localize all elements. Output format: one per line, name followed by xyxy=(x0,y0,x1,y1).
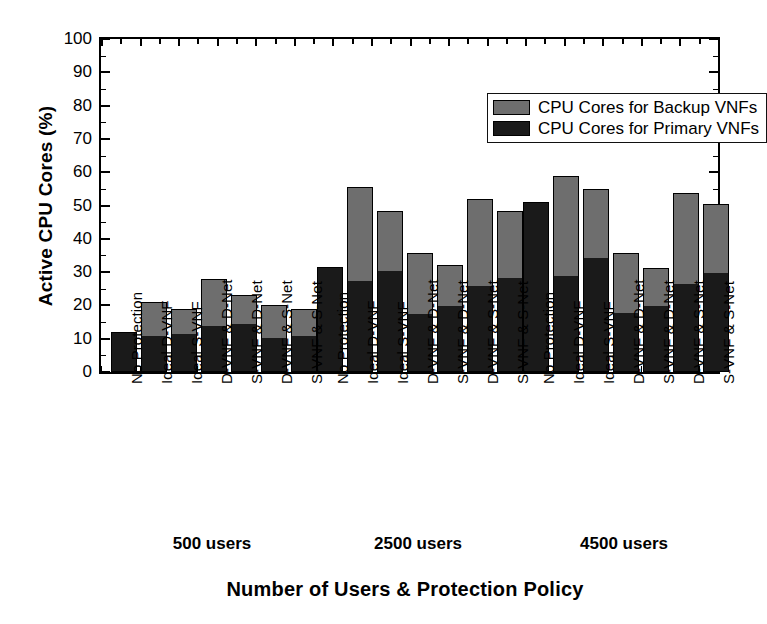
x-tick-top xyxy=(120,39,122,44)
y-tick-major xyxy=(101,105,110,107)
legend-swatch-backup xyxy=(493,100,530,115)
y-tick-major xyxy=(101,71,110,73)
x-group-label: 500 users xyxy=(173,534,251,554)
y-tick-minor xyxy=(101,89,106,90)
y-tick-minor xyxy=(101,156,106,157)
y-tick-minor xyxy=(101,56,106,57)
x-category-label: D-VNF & D-Net xyxy=(424,279,441,384)
y-tick-minor xyxy=(101,322,106,323)
x-tick-top xyxy=(294,39,296,46)
x-category-label: Ideal S-VNF xyxy=(188,301,205,384)
bar-segment-backup xyxy=(498,212,522,280)
y-tick-minor xyxy=(101,255,106,256)
x-tick-top xyxy=(159,39,161,44)
x-category-label: S-VNF & D-Net xyxy=(660,280,677,384)
x-category-label: Ideal D-VNF xyxy=(158,300,175,384)
x-tick-top xyxy=(197,39,199,44)
x-category-label: No Protection xyxy=(334,292,351,384)
x-category-label: D-VNF & S-Net xyxy=(278,280,295,384)
x-tick-top xyxy=(217,39,219,46)
x-tick-top xyxy=(390,39,392,44)
x-tick-top xyxy=(429,39,431,44)
y-tick-minor xyxy=(101,222,106,223)
x-category-label: S-VNF & D-Net xyxy=(248,280,265,384)
x-tick-top xyxy=(525,39,527,46)
x-category-label: D-VNF & D-Net xyxy=(630,279,647,384)
y-tick-label: 60 xyxy=(73,162,92,182)
x-tick-top xyxy=(622,39,624,44)
y-tick-minor xyxy=(101,355,106,356)
bar-segment-backup xyxy=(674,194,698,287)
x-tick-top xyxy=(641,39,643,46)
y-tick-label: 0 xyxy=(83,362,92,382)
y-tick-minor-right xyxy=(713,156,718,157)
legend-item-backup: CPU Cores for Backup VNFs xyxy=(493,97,759,118)
x-category-label: No Protection xyxy=(540,292,557,384)
x-tick-top xyxy=(699,39,701,44)
y-tick-minor xyxy=(101,122,106,123)
legend-item-primary: CPU Cores for Primary VNFs xyxy=(493,118,759,139)
legend-label-backup: CPU Cores for Backup VNFs xyxy=(538,99,757,116)
y-tick-label: 100 xyxy=(64,29,92,49)
y-tick-major xyxy=(101,371,110,373)
x-tick-top xyxy=(718,39,720,46)
legend-label-primary: CPU Cores for Primary VNFs xyxy=(538,120,759,137)
bar-segment-backup xyxy=(584,190,608,260)
x-category-label: S-VNF & S-Net xyxy=(720,281,737,384)
y-tick-major-right xyxy=(709,38,718,40)
y-tick-major xyxy=(101,338,110,340)
x-category-label: D-VNF & S-Net xyxy=(484,280,501,384)
bar-segment-backup xyxy=(704,205,728,275)
x-tick-top xyxy=(236,39,238,44)
y-tick-label: 20 xyxy=(73,295,92,315)
x-tick-top xyxy=(583,39,585,44)
chart-legend: CPU Cores for Backup VNFsCPU Cores for P… xyxy=(487,93,767,143)
y-tick-major xyxy=(101,205,110,207)
y-tick-label: 30 xyxy=(73,262,92,282)
y-tick-label: 90 xyxy=(73,62,92,82)
y-tick-major-right xyxy=(709,171,718,173)
x-tick-top xyxy=(467,39,469,44)
bar-segment-backup xyxy=(348,188,372,283)
y-tick-major xyxy=(101,271,110,273)
y-tick-label: 10 xyxy=(73,329,92,349)
y-tick-minor-right xyxy=(713,189,718,190)
x-tick-top xyxy=(506,39,508,44)
bar-segment-backup xyxy=(468,200,492,288)
x-tick-top xyxy=(140,39,142,46)
x-tick-top xyxy=(352,39,354,44)
x-tick-top xyxy=(487,39,489,46)
bar-segment-backup xyxy=(554,177,578,279)
y-tick-minor xyxy=(101,289,106,290)
legend-swatch-primary xyxy=(493,121,530,136)
x-category-label: Ideal D-VNF xyxy=(364,300,381,384)
x-tick-top xyxy=(564,39,566,46)
x-category-label: S-VNF & S-Net xyxy=(308,281,325,384)
y-tick-label: 70 xyxy=(73,129,92,149)
x-category-label: D-VNF & S-Net xyxy=(690,280,707,384)
y-tick-major-right xyxy=(709,71,718,73)
x-tick-top xyxy=(275,39,277,44)
x-group-label: 4500 users xyxy=(580,534,668,554)
y-tick-minor-right xyxy=(713,56,718,57)
x-category-label: S-VNF & S-Net xyxy=(514,281,531,384)
y-tick-minor xyxy=(101,189,106,190)
y-tick-label: 40 xyxy=(73,229,92,249)
x-category-label: D-VNF & D-Net xyxy=(218,279,235,384)
x-tick-top xyxy=(679,39,681,46)
x-axis-title: Number of Users & Protection Policy xyxy=(95,578,715,601)
y-tick-major xyxy=(101,171,110,173)
y-tick-label: 50 xyxy=(73,196,92,216)
x-category-label: Ideal D-VNF xyxy=(570,300,587,384)
y-axis-title: Active CPU Cores (%) xyxy=(35,56,57,356)
y-tick-major xyxy=(101,138,110,140)
x-tick-top xyxy=(660,39,662,44)
x-category-label: S-VNF & D-Net xyxy=(454,280,471,384)
x-tick-top xyxy=(101,39,103,46)
x-tick-top xyxy=(313,39,315,44)
x-tick-top xyxy=(255,39,257,46)
x-tick-top xyxy=(332,39,334,46)
x-tick-top xyxy=(544,39,546,44)
y-tick-major xyxy=(101,238,110,240)
